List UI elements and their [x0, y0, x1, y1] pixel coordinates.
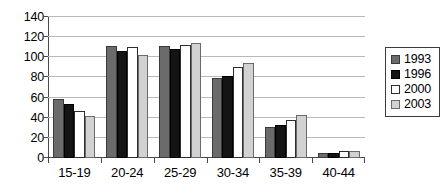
bar-20-24-1993	[106, 46, 117, 158]
bar-40-44-2003	[349, 151, 360, 158]
x-axis: 15-1920-2425-2930-3435-3940-44	[48, 158, 365, 190]
bar-20-24-1996	[117, 51, 128, 158]
bars-layer	[48, 17, 365, 158]
x-axis-label-30-34: 30-34	[207, 165, 260, 180]
x-tick-3	[207, 158, 208, 163]
plot-area	[48, 17, 365, 158]
bar-chart: 020406080100120140 15-1920-2425-2930-343…	[0, 0, 447, 190]
bar-25-29-1993	[159, 46, 170, 158]
y-tick-label-60: 60	[4, 92, 44, 104]
legend-item-2003: 2003	[391, 97, 435, 112]
bar-25-29-1996	[170, 49, 181, 158]
legend-swatch-1996	[391, 70, 400, 79]
y-tick-label-80: 80	[4, 71, 44, 83]
bar-30-34-2000	[233, 67, 244, 158]
bar-35-39-2003	[296, 115, 307, 158]
y-tick-label-140: 140	[4, 11, 44, 23]
y-tick-label-0: 0	[4, 152, 44, 164]
x-axis-label-15-19: 15-19	[48, 165, 101, 180]
x-tick-2	[154, 158, 155, 163]
bar-20-24-2003	[138, 55, 149, 158]
legend-label-1993: 1993	[404, 53, 431, 66]
bar-20-24-2000	[127, 47, 138, 158]
bar-40-44-2000	[339, 151, 350, 158]
bar-35-39-1993	[265, 127, 276, 158]
x-tick-4	[259, 158, 260, 163]
y-tick-label-40: 40	[4, 112, 44, 124]
bar-35-39-1996	[275, 125, 286, 158]
x-axis-label-20-24: 20-24	[101, 165, 154, 180]
bar-15-19-1996	[64, 104, 75, 158]
bar-30-34-2003	[243, 63, 254, 158]
x-tick-1	[101, 158, 102, 163]
bar-35-39-2000	[286, 120, 297, 158]
chart-legend: 1993199620002003	[385, 47, 440, 117]
x-tick-6	[364, 158, 365, 163]
y-axis-labels: 020406080100120140	[0, 17, 44, 158]
bar-group-35-39	[259, 17, 312, 158]
bar-15-19-2000	[74, 111, 85, 158]
x-tick-5	[312, 158, 313, 163]
bar-25-29-2000	[180, 45, 191, 158]
bar-15-19-1993	[53, 99, 64, 158]
bar-group-20-24	[101, 17, 154, 158]
legend-item-2000: 2000	[391, 82, 435, 97]
bar-30-34-1993	[212, 78, 223, 158]
x-axis-label-35-39: 35-39	[259, 165, 312, 180]
legend-swatch-1993	[391, 55, 400, 64]
bar-group-15-19	[48, 17, 101, 158]
legend-label-1996: 1996	[404, 68, 431, 81]
y-tick-label-100: 100	[4, 51, 44, 63]
bar-group-40-44	[312, 17, 365, 158]
legend-label-2003: 2003	[404, 98, 431, 111]
bar-30-34-1996	[222, 76, 233, 158]
x-axis-label-25-29: 25-29	[154, 165, 207, 180]
legend-item-1996: 1996	[391, 67, 435, 82]
legend-label-2000: 2000	[404, 83, 431, 96]
y-tick-label-120: 120	[4, 31, 44, 43]
bar-15-19-2003	[85, 116, 96, 158]
bar-group-30-34	[207, 17, 260, 158]
legend-swatch-2000	[391, 85, 400, 94]
bar-group-25-29	[154, 17, 207, 158]
x-tick-0	[48, 158, 49, 163]
x-axis-label-40-44: 40-44	[312, 165, 365, 180]
y-tick-label-20: 20	[4, 132, 44, 144]
bar-25-29-2003	[191, 43, 202, 158]
legend-item-1993: 1993	[391, 52, 435, 67]
legend-swatch-2003	[391, 100, 400, 109]
